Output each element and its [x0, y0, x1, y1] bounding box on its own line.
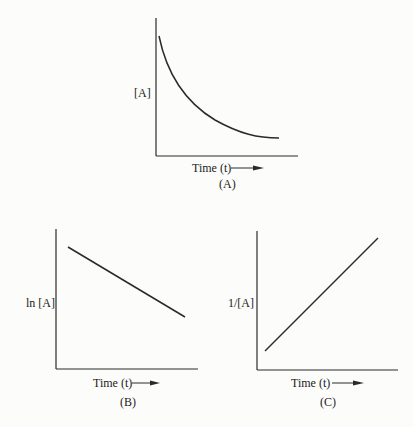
panel-c	[257, 231, 398, 386]
diagram-canvas	[0, 0, 413, 427]
arrowhead-icon	[150, 381, 160, 386]
panel-c-x-label: Time (t)	[291, 376, 330, 391]
panel-a-decay-curve	[159, 36, 279, 138]
arrowhead-icon	[353, 381, 364, 386]
panel-a-y-label: [A]	[134, 86, 151, 101]
panel-b-x-label: Time (t)	[93, 376, 132, 391]
panel-a	[156, 18, 298, 171]
panel-b	[56, 229, 198, 386]
panel-c-caption: (C)	[320, 395, 336, 410]
panel-a-x-label: Time (t)	[192, 161, 231, 176]
panel-a-caption: (A)	[219, 177, 236, 192]
arrowhead-icon	[253, 166, 264, 171]
panel-b-caption: (B)	[120, 395, 136, 410]
panel-c-y-label: 1/[A]	[228, 296, 254, 311]
panel-b-line	[68, 247, 185, 317]
panel-c-line	[265, 238, 378, 351]
panel-b-y-label: ln [A]	[26, 296, 55, 311]
